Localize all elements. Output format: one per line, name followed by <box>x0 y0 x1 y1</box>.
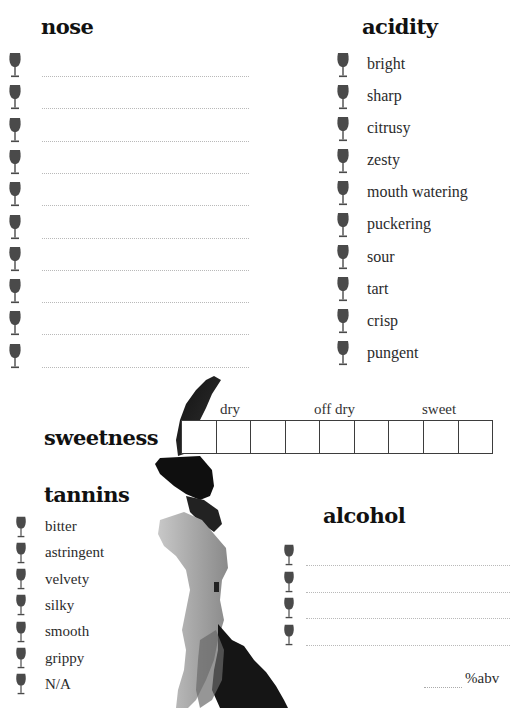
ink-splash-decoration <box>0 0 511 708</box>
wine-glass-icon <box>8 343 22 369</box>
wine-glass-icon <box>15 568 27 590</box>
acidity-item[interactable]: puckering <box>367 216 431 232</box>
sweetness-box-3[interactable] <box>250 420 285 454</box>
acidity-item[interactable]: crisp <box>367 313 398 329</box>
acidity-item[interactable]: sharp <box>367 88 402 104</box>
acidity-heading: acidity <box>362 16 437 37</box>
wine-glass-icon <box>8 117 22 143</box>
acidity-item[interactable]: zesty <box>367 152 400 168</box>
wine-glass-icon <box>8 149 22 175</box>
nose-write-line[interactable] <box>42 76 249 77</box>
alcohol-write-line[interactable] <box>306 645 510 646</box>
nose-write-line[interactable] <box>42 270 249 271</box>
nose-write-line[interactable] <box>42 367 249 368</box>
wine-glass-icon <box>336 308 350 334</box>
nose-write-line[interactable] <box>42 334 249 335</box>
nose-write-line[interactable] <box>42 238 249 239</box>
wine-glass-icon <box>283 624 295 646</box>
wine-glass-icon <box>8 214 22 240</box>
nose-write-line[interactable] <box>42 302 249 303</box>
wine-glass-icon <box>283 597 295 619</box>
acidity-item[interactable]: bright <box>367 56 405 72</box>
tannins-item[interactable]: astringent <box>45 545 104 560</box>
sweetness-box-7[interactable] <box>388 420 423 454</box>
tannins-item[interactable]: N/A <box>45 677 71 692</box>
alcohol-write-line[interactable] <box>306 592 510 593</box>
wine-glass-icon <box>283 544 295 566</box>
wine-glass-icon <box>8 52 22 78</box>
wine-glass-icon <box>336 244 350 270</box>
tannins-item[interactable]: silky <box>45 598 74 613</box>
acidity-item[interactable]: pungent <box>367 345 419 361</box>
alcohol-heading: alcohol <box>323 505 405 526</box>
wine-glass-icon <box>8 278 22 304</box>
tannins-item[interactable]: velvety <box>45 572 89 587</box>
acidity-item[interactable]: citrusy <box>367 120 411 136</box>
wine-glass-icon <box>336 84 350 110</box>
sweetness-heading: sweetness <box>44 427 158 448</box>
wine-glass-icon <box>336 52 350 78</box>
wine-glass-icon <box>15 673 27 695</box>
sweetness-box-1[interactable] <box>181 420 216 454</box>
alcohol-write-line[interactable] <box>306 565 510 566</box>
wine-glass-icon <box>336 212 350 238</box>
sweetness-scale <box>181 420 493 454</box>
wine-glass-icon <box>8 246 22 272</box>
wine-glass-icon <box>15 516 27 538</box>
sweetness-box-8[interactable] <box>423 420 458 454</box>
wine-glass-icon <box>8 84 22 110</box>
acidity-item[interactable]: sour <box>367 249 395 265</box>
scale-label-sweet: sweet <box>422 402 456 417</box>
abv-input-line[interactable] <box>424 687 462 688</box>
wine-glass-icon <box>336 148 350 174</box>
alcohol-write-line[interactable] <box>306 618 510 619</box>
wine-glass-icon <box>15 542 27 564</box>
sweetness-box-5[interactable] <box>319 420 354 454</box>
wine-glass-icon <box>15 621 27 643</box>
wine-glass-icon <box>336 116 350 142</box>
nose-write-line[interactable] <box>42 173 249 174</box>
abv-label: %abv <box>465 671 499 686</box>
scale-label-dry: dry <box>220 402 240 417</box>
acidity-item[interactable]: mouth watering <box>367 184 468 200</box>
sweetness-box-4[interactable] <box>285 420 320 454</box>
sweetness-box-6[interactable] <box>354 420 389 454</box>
wine-glass-icon <box>8 310 22 336</box>
nose-heading: nose <box>41 16 93 37</box>
acidity-item[interactable]: tart <box>367 281 388 297</box>
wine-glass-icon <box>283 571 295 593</box>
wine-glass-icon <box>336 340 350 366</box>
sweetness-box-2[interactable] <box>216 420 251 454</box>
wine-glass-icon <box>15 594 27 616</box>
nose-write-line[interactable] <box>42 205 249 206</box>
wine-glass-icon <box>8 181 22 207</box>
nose-write-line[interactable] <box>42 108 249 109</box>
tannins-item[interactable]: smooth <box>45 624 89 639</box>
sweetness-box-9[interactable] <box>458 420 494 454</box>
nose-write-line[interactable] <box>42 141 249 142</box>
wine-glass-icon <box>15 647 27 669</box>
wine-glass-icon <box>336 276 350 302</box>
tannins-item[interactable]: bitter <box>45 519 77 534</box>
tannins-heading: tannins <box>44 484 129 505</box>
tannins-item[interactable]: grippy <box>45 651 84 666</box>
scale-label-off-dry: off dry <box>314 402 355 417</box>
wine-glass-icon <box>336 180 350 206</box>
